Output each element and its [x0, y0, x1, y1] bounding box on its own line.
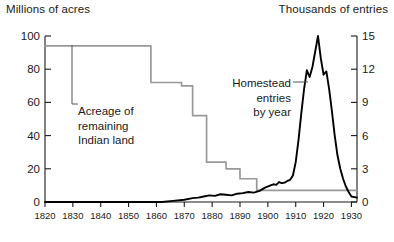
- left-axis-tick-label: 100: [21, 30, 40, 42]
- x-axis: 1820183018401850186018701880189019001910…: [34, 202, 362, 221]
- left-axis: 020406080100: [21, 30, 51, 208]
- annotation-indian-land-line2: remaining: [78, 119, 134, 134]
- x-axis-tick-label: 1910: [285, 210, 306, 221]
- x-axis-tick-label: 1920: [313, 210, 334, 221]
- annotation-indian-land-line3: Indian land: [78, 133, 134, 148]
- x-axis-tick-label: 1820: [34, 210, 55, 221]
- left-axis-tick-label: 40: [27, 130, 40, 142]
- chart-container: Millions of acres Thousands of entries 0…: [0, 0, 394, 242]
- x-axis-tick-label: 1890: [229, 210, 250, 221]
- right-axis-tick-label: 9: [362, 96, 368, 108]
- annotation-indian-land-line1: Acreage of: [78, 104, 134, 119]
- x-axis-tick-label: 1860: [146, 210, 167, 221]
- left-axis-tick-label: 80: [27, 63, 40, 75]
- annotation-homestead-line2: entries: [232, 91, 291, 106]
- x-axis-tick-label: 1840: [90, 210, 111, 221]
- x-axis-tick-label: 1930: [341, 210, 362, 221]
- right-axis-tick-label: 15: [362, 30, 375, 42]
- x-axis-tick-label: 1850: [118, 210, 139, 221]
- right-axis-tick-label: 12: [362, 63, 375, 75]
- x-axis-tick-label: 1880: [202, 210, 223, 221]
- right-axis: 03691215: [351, 30, 375, 208]
- x-axis-tick-label: 1870: [174, 210, 195, 221]
- right-axis-tick-label: 3: [362, 163, 368, 175]
- right-axis-tick-label: 0: [362, 196, 368, 208]
- annotation-homestead-line3: by year: [232, 105, 291, 120]
- right-axis-tick-label: 6: [362, 130, 368, 142]
- annotation-homestead-line1: Homestead: [232, 76, 291, 91]
- x-axis-tick-label: 1900: [257, 210, 278, 221]
- left-axis-tick-label: 0: [34, 196, 40, 208]
- left-axis-tick-label: 60: [27, 96, 40, 108]
- chart-plot-area: 020406080100 03691215 182018301840185018…: [0, 0, 394, 242]
- annotation-indian-land: Acreage of remaining Indian land: [78, 104, 134, 148]
- leader-line-indian-land: [72, 45, 78, 104]
- x-axis-tick-label: 1830: [62, 210, 83, 221]
- left-axis-tick-label: 20: [27, 163, 40, 175]
- annotation-homestead: Homestead entries by year: [232, 76, 291, 120]
